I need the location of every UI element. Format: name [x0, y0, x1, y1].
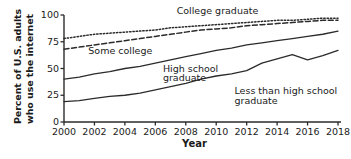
x-tick-label-2008: 2008 — [174, 126, 198, 137]
x-tick-label-2016: 2016 — [295, 126, 319, 137]
annotation-label-1: Some college — [88, 45, 152, 56]
x-tick-label-2012: 2012 — [235, 126, 259, 137]
x-tick-label-2014: 2014 — [265, 126, 289, 137]
annotation-label-5: graduate — [234, 95, 277, 106]
chart-container: Percent of U.S. adults who use the inter… — [0, 0, 351, 159]
annotation-label-3: graduate — [163, 72, 206, 83]
x-tick-label-2000: 2000 — [52, 126, 76, 137]
x-axis-title: Year — [0, 138, 351, 149]
series-annotations: College graduateSome collegeHigh schoolg… — [88, 5, 337, 106]
x-tick-label-2004: 2004 — [113, 126, 137, 137]
series-line-0 — [64, 18, 338, 38]
x-tick-label-2006: 2006 — [143, 126, 167, 137]
x-tick-label-2002: 2002 — [82, 126, 106, 137]
annotation-label-0: College graduate — [177, 5, 259, 16]
x-axis-title-text: Year — [182, 138, 207, 149]
x-tick-label-2010: 2010 — [204, 126, 228, 137]
x-tick-label-2018: 2018 — [326, 126, 350, 137]
